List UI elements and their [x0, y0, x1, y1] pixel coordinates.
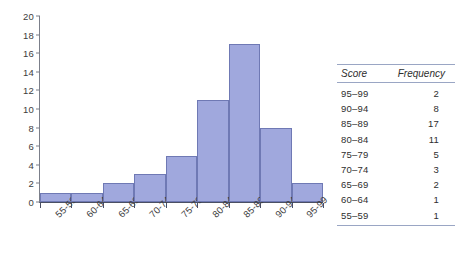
- table-row: 85–8917: [337, 116, 455, 131]
- histogram-bar: [197, 100, 228, 202]
- y-axis-tick-label: 0: [29, 197, 40, 208]
- cell-frequency: 17: [379, 116, 455, 131]
- cell-frequency: 1: [379, 192, 455, 207]
- table-bottom-rule: [337, 225, 455, 226]
- x-axis-tick-mark: [166, 203, 167, 208]
- frequency-table-panel: Score Frequency 95–99290–94885–891780–84…: [337, 64, 455, 226]
- x-axis-tick-mark: [323, 203, 324, 208]
- y-axis-tick-label: 2: [29, 178, 40, 189]
- histogram-figure: 0246810121416182055-5960-6465-6970-7475-…: [0, 0, 465, 259]
- cell-score: 70–74: [337, 162, 379, 177]
- cell-frequency: 3: [379, 162, 455, 177]
- cell-frequency: 1: [379, 207, 455, 224]
- table-row: 90–948: [337, 101, 455, 116]
- cell-frequency: 2: [379, 177, 455, 192]
- x-axis-tick-mark: [292, 203, 293, 208]
- table-header-row: Score Frequency: [337, 65, 455, 83]
- y-axis-tick-label: 4: [29, 159, 40, 170]
- x-axis-tick-mark: [197, 203, 198, 208]
- y-axis-tick-label: 20: [23, 11, 40, 22]
- x-axis-tick-mark: [260, 203, 261, 208]
- x-axis-tick-mark: [229, 203, 230, 208]
- histogram-chart: 0246810121416182055-5960-6465-6970-7475-…: [0, 0, 335, 259]
- column-header-frequency: Frequency: [379, 65, 455, 83]
- table-row: 60–641: [337, 192, 455, 207]
- cell-score: 80–84: [337, 131, 379, 146]
- cell-frequency: 5: [379, 147, 455, 162]
- table-head: Score Frequency: [337, 65, 455, 83]
- y-axis-tick-label: 12: [23, 85, 40, 96]
- plot-area: 0246810121416182055-5960-6465-6970-7475-…: [40, 16, 323, 202]
- table-row: 80–8411: [337, 131, 455, 146]
- table-row: 75–795: [337, 147, 455, 162]
- y-axis-tick-label: 8: [29, 122, 40, 133]
- histogram-bar: [260, 128, 291, 202]
- cell-frequency: 11: [379, 131, 455, 146]
- table-row: 55–591: [337, 207, 455, 224]
- table-row: 95–992: [337, 83, 455, 102]
- y-axis-tick-label: 16: [23, 48, 40, 59]
- cell-score: 95–99: [337, 83, 379, 102]
- cell-score: 85–89: [337, 116, 379, 131]
- cell-score: 55–59: [337, 207, 379, 224]
- x-axis-tick-mark: [134, 203, 135, 208]
- cell-score: 90–94: [337, 101, 379, 116]
- y-axis-tick-label: 18: [23, 29, 40, 40]
- y-axis-tick-label: 14: [23, 66, 40, 77]
- frequency-table: Score Frequency 95–99290–94885–891780–84…: [337, 64, 455, 225]
- y-axis-tick-label: 6: [29, 141, 40, 152]
- cell-frequency: 2: [379, 83, 455, 102]
- x-axis-tick-mark: [40, 203, 41, 208]
- cell-score: 75–79: [337, 147, 379, 162]
- histogram-bar: [166, 156, 197, 203]
- histogram-bar: [229, 44, 260, 202]
- cell-frequency: 8: [379, 101, 455, 116]
- table-row: 70–743: [337, 162, 455, 177]
- x-axis-tick-mark: [71, 203, 72, 208]
- table-body: 95–99290–94885–891780–841175–79570–74365…: [337, 83, 455, 225]
- y-axis-tick-label: 10: [23, 104, 40, 115]
- column-header-score: Score: [337, 65, 379, 83]
- table-row: 65–692: [337, 177, 455, 192]
- x-axis-tick-mark: [103, 203, 104, 208]
- cell-score: 60–64: [337, 192, 379, 207]
- cell-score: 65–69: [337, 177, 379, 192]
